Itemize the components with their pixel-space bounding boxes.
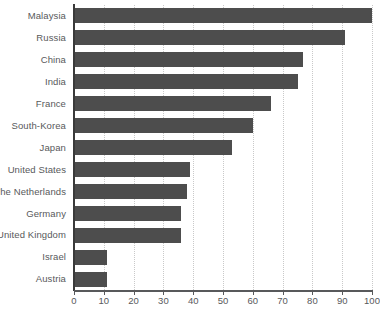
bar	[74, 96, 271, 111]
category-label: Japan	[0, 137, 70, 159]
category-label: Russia	[0, 27, 70, 49]
tick-label: 40	[188, 296, 199, 306]
bar-row	[74, 5, 372, 27]
tick-label: 90	[337, 296, 348, 306]
bar	[74, 8, 372, 23]
category-label: United Kingdom	[0, 224, 70, 246]
bar-row	[74, 115, 372, 137]
bar-row	[74, 158, 372, 180]
bar-row	[74, 268, 372, 290]
category-label: South-Korea	[0, 115, 70, 137]
y-axis-spine	[73, 4, 75, 291]
bar	[74, 30, 345, 45]
bar	[74, 184, 187, 199]
tick-label: 20	[128, 296, 139, 306]
bar-row	[74, 93, 372, 115]
bar-row	[74, 224, 372, 246]
tick-label: 30	[158, 296, 169, 306]
plot-area	[74, 5, 372, 290]
tick-label: 0	[71, 296, 76, 306]
category-axis-labels: Malaysia Russia China India France South…	[0, 5, 70, 290]
bar	[74, 52, 303, 67]
category-label: India	[0, 71, 70, 93]
category-label: Israel	[0, 246, 70, 268]
bar	[74, 140, 232, 155]
category-label: Austria	[0, 268, 70, 290]
tick-label: 70	[277, 296, 288, 306]
category-label: United States	[0, 158, 70, 180]
tick-label: 10	[99, 296, 110, 306]
bar	[74, 118, 253, 133]
bar-row	[74, 49, 372, 71]
bar-row	[74, 27, 372, 49]
bar-series	[74, 5, 372, 290]
bar-row	[74, 137, 372, 159]
tick-label: 100	[364, 296, 380, 306]
tick-label: 50	[218, 296, 229, 306]
category-label: China	[0, 49, 70, 71]
bar	[74, 162, 190, 177]
bar	[74, 272, 107, 287]
x-axis-ticks: 0102030405060708090100	[74, 292, 372, 308]
bar	[74, 250, 107, 265]
category-label: Malaysia	[0, 5, 70, 27]
bar	[74, 228, 181, 243]
category-label: France	[0, 93, 70, 115]
bar-row	[74, 202, 372, 224]
gridline	[372, 5, 374, 290]
tick-label: 60	[248, 296, 259, 306]
bar	[74, 74, 298, 89]
bar-row	[74, 71, 372, 93]
bar-row	[74, 180, 372, 202]
category-label: The Netherlands	[0, 180, 70, 202]
bar-row	[74, 246, 372, 268]
tick-label: 80	[307, 296, 318, 306]
bar	[74, 206, 181, 221]
category-label: Germany	[0, 202, 70, 224]
